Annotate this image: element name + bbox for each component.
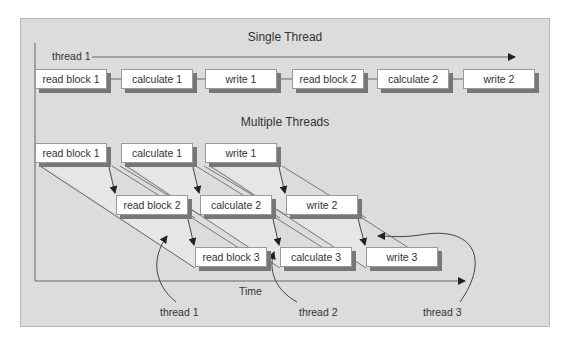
single-step-box: read block 1 bbox=[35, 69, 107, 89]
thread-2-callout-label: thread 2 bbox=[299, 306, 338, 318]
time-axis-label: Time bbox=[239, 285, 262, 297]
single-step-box: write 1 bbox=[205, 69, 277, 89]
multi-step-box: calculate 1 bbox=[121, 143, 193, 163]
multiple-threads-title: Multiple Threads bbox=[241, 115, 330, 129]
single-step-box: read block 2 bbox=[292, 69, 364, 89]
multi-step-box: read block 1 bbox=[35, 143, 107, 163]
multi-step-box: write 2 bbox=[286, 195, 358, 215]
multi-step-box: calculate 3 bbox=[280, 247, 352, 267]
single-step-box: calculate 1 bbox=[121, 69, 193, 89]
thread-1-label: thread 1 bbox=[52, 50, 91, 62]
multi-step-box: read block 2 bbox=[116, 195, 188, 215]
thread-3-callout-label: thread 3 bbox=[423, 306, 462, 318]
multi-step-box: write 3 bbox=[366, 247, 438, 267]
multi-step-box: write 1 bbox=[205, 143, 277, 163]
thread-3-callout bbox=[378, 233, 475, 302]
multi-step-box: read block 3 bbox=[195, 247, 267, 267]
single-step-box: calculate 2 bbox=[377, 69, 449, 89]
thread-1-callout-label: thread 1 bbox=[160, 306, 199, 318]
single-thread-title: Single Thread bbox=[248, 30, 323, 44]
multi-step-box: calculate 2 bbox=[200, 195, 272, 215]
single-step-box: write 2 bbox=[463, 69, 535, 89]
